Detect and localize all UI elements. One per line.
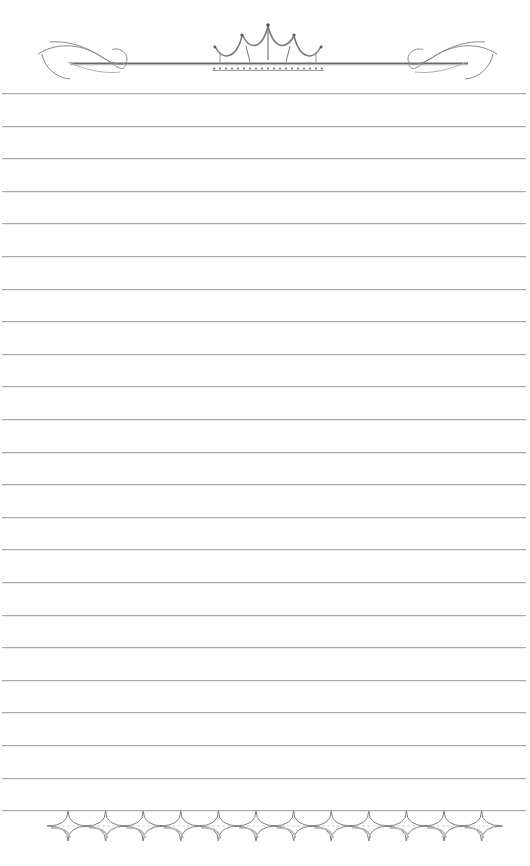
ruled-line xyxy=(2,484,526,485)
ruled-line xyxy=(2,419,526,420)
ruled-line xyxy=(2,321,526,322)
ruled-line xyxy=(2,452,526,453)
crown-flourish-header-icon xyxy=(0,0,530,85)
left-flourish-icon xyxy=(38,42,127,79)
ruled-line xyxy=(2,158,526,159)
ruled-line xyxy=(2,778,526,779)
ruled-line xyxy=(2,680,526,681)
right-flourish-icon xyxy=(408,42,497,79)
ruled-line xyxy=(2,615,526,616)
ruled-line xyxy=(2,517,526,518)
ruled-line xyxy=(2,712,526,713)
crown-icon xyxy=(216,26,320,62)
ruled-line xyxy=(2,256,526,257)
ruled-line xyxy=(2,191,526,192)
ruled-line xyxy=(2,354,526,355)
stationery-page xyxy=(0,0,530,866)
star-border-footer-icon xyxy=(0,805,530,855)
ruled-line xyxy=(2,93,526,94)
ruled-line xyxy=(2,126,526,127)
ruled-line xyxy=(2,745,526,746)
bead-row-icon xyxy=(213,67,323,69)
ruled-line xyxy=(2,386,526,387)
ruled-line xyxy=(2,289,526,290)
ruled-line xyxy=(2,223,526,224)
ruled-line xyxy=(2,549,526,550)
ruled-line xyxy=(2,582,526,583)
ruled-line xyxy=(2,647,526,648)
